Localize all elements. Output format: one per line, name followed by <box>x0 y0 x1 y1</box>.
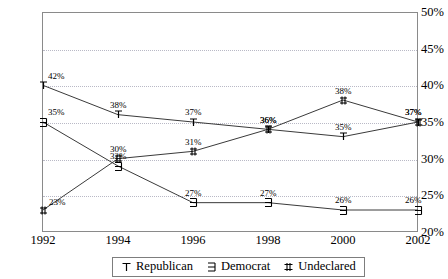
x-tick-2000: 2000 <box>313 234 373 247</box>
plot-area <box>42 12 418 232</box>
point-label: 26% <box>405 196 422 205</box>
x-tick-1996: 1996 <box>163 234 223 247</box>
undeclared-marker <box>189 146 198 157</box>
point-label: 38% <box>335 87 352 96</box>
legend-label-democrat: Democrat <box>221 260 270 273</box>
point-label: 36% <box>260 116 277 125</box>
democrat-marker <box>414 205 423 216</box>
democrat-marker <box>189 197 198 208</box>
point-label: 27% <box>260 189 277 198</box>
democrat-marker <box>339 205 348 216</box>
y-tick-40: 40% <box>404 79 444 91</box>
gridline-40 <box>43 86 417 87</box>
point-label: 23% <box>49 198 66 207</box>
point-label: 30% <box>110 145 127 154</box>
point-label: 37% <box>185 108 202 117</box>
undeclared-marker <box>339 95 348 106</box>
x-tick-2002: 2002 <box>388 234 448 247</box>
republican-marker <box>339 131 348 142</box>
x-tick-1992: 1992 <box>13 234 73 247</box>
legend-label-undeclared: Undeclared <box>298 260 356 273</box>
point-label: 42% <box>48 72 65 81</box>
undeclared-marker <box>264 124 273 135</box>
point-label: 27% <box>185 189 202 198</box>
point-label: 31% <box>185 138 202 147</box>
y-tick-45: 45% <box>404 43 444 55</box>
point-label: 35% <box>335 123 352 132</box>
undeclared-marker-icon <box>283 261 294 273</box>
gridline-25 <box>43 196 417 197</box>
gridline-35 <box>43 123 417 124</box>
gridline-45 <box>43 50 417 51</box>
undeclared-marker <box>39 205 48 216</box>
legend-item-democrat[interactable]: Democrat <box>206 260 270 273</box>
point-label: 35% <box>48 108 65 117</box>
undeclared-marker <box>414 117 423 128</box>
point-label: 26% <box>335 196 352 205</box>
x-tick-1994: 1994 <box>88 234 148 247</box>
republican-marker <box>39 80 48 91</box>
legend-item-undeclared[interactable]: Undeclared <box>283 260 356 273</box>
y-tick-30: 30% <box>404 153 444 165</box>
x-tick-1998: 1998 <box>238 234 298 247</box>
democrat-marker <box>264 197 273 208</box>
legend-label-republican: Republican <box>136 260 193 273</box>
republican-marker <box>114 109 123 120</box>
democrat-marker <box>39 117 48 128</box>
point-label: 38% <box>110 101 127 110</box>
democrat-marker-icon <box>206 261 217 273</box>
y-tick-35: 35% <box>404 116 444 128</box>
legend: Republican Democrat Undeclared <box>112 257 365 277</box>
republican-marker <box>189 117 198 128</box>
point-label: 37% <box>405 108 422 117</box>
legend-item-republican[interactable]: Republican <box>121 260 193 273</box>
gridline-30 <box>43 160 417 161</box>
republican-marker-icon <box>121 261 132 273</box>
y-tick-50: 50% <box>404 6 444 18</box>
